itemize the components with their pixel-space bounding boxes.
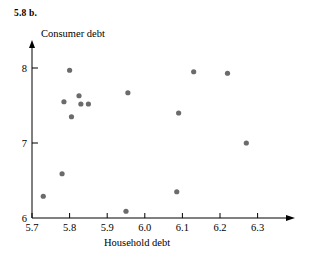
data-point bbox=[67, 68, 72, 73]
data-point bbox=[125, 90, 130, 95]
x-tick-label: 6.1 bbox=[176, 222, 189, 233]
y-axis-ticks: 678 bbox=[22, 63, 38, 224]
data-point bbox=[191, 69, 196, 74]
x-tick-label: 5.8 bbox=[63, 222, 76, 233]
x-axis-arrow-icon bbox=[286, 215, 295, 221]
figure-container: 5.8 b. Consumer debt Household debt 678 … bbox=[0, 0, 314, 258]
y-tick-label: 7 bbox=[22, 138, 27, 149]
data-points bbox=[41, 68, 249, 214]
y-tick-label: 8 bbox=[22, 63, 27, 74]
data-point bbox=[76, 93, 81, 98]
data-point bbox=[59, 171, 64, 176]
x-tick-label: 5.7 bbox=[25, 222, 38, 233]
data-point bbox=[123, 209, 128, 214]
data-point bbox=[61, 99, 66, 104]
x-tick-label: 6.0 bbox=[138, 222, 151, 233]
data-point bbox=[41, 194, 46, 199]
x-axis-ticks: 5.75.85.96.06.16.26.3 bbox=[25, 213, 264, 233]
axes bbox=[29, 40, 295, 221]
x-tick-label: 6.2 bbox=[213, 222, 226, 233]
data-point bbox=[78, 101, 83, 106]
data-point bbox=[86, 101, 91, 106]
y-axis-arrow-icon bbox=[29, 40, 35, 48]
data-point bbox=[244, 140, 249, 145]
data-point bbox=[174, 189, 179, 194]
scatter-plot: 678 5.75.85.96.06.16.26.3 bbox=[0, 0, 314, 258]
data-point bbox=[69, 114, 74, 119]
x-tick-label: 5.9 bbox=[101, 222, 114, 233]
data-point bbox=[225, 71, 230, 76]
data-point bbox=[176, 110, 181, 115]
x-tick-label: 6.3 bbox=[251, 222, 264, 233]
